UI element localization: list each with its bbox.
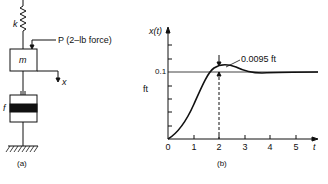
- y-unit-label: ft: [143, 85, 148, 94]
- y-ticks: [168, 45, 172, 126]
- force-line: [32, 40, 56, 47]
- displacement-line: [37, 71, 58, 80]
- y-tick-label: 0.1: [155, 68, 166, 76]
- spring-icon: [20, 6, 26, 49]
- y-axis-label: x(t): [149, 27, 162, 36]
- response-plot: [166, 27, 318, 141]
- y-axis-arrow-icon: [166, 27, 170, 33]
- mass-label: m: [19, 56, 27, 65]
- x-tick-3: 3: [242, 143, 247, 152]
- caption-a: (a): [17, 160, 27, 168]
- spring-label: k: [13, 20, 18, 29]
- x-axis-arrow-icon: [312, 137, 318, 141]
- x-tick-2: 2: [216, 143, 221, 152]
- displacement-label: x: [62, 78, 67, 87]
- ground-hatch-icon: [6, 146, 38, 152]
- x-tick-0: 0: [165, 143, 170, 152]
- displacement-arrow-icon: [56, 78, 60, 82]
- x-ticks: [194, 135, 296, 139]
- diagram-canvas: [0, 0, 328, 184]
- x-tick-5: 5: [293, 143, 298, 152]
- overshoot-annotation: 0.0095 ft: [241, 55, 276, 64]
- damper-label: f: [3, 104, 6, 113]
- x-tick-1: 1: [191, 143, 196, 152]
- x-axis-label: t: [313, 143, 316, 152]
- force-arrow-icon: [30, 45, 34, 49]
- x-tick-4: 4: [267, 143, 272, 152]
- caption-b: (b): [217, 160, 227, 168]
- force-label: P (2–lb force): [58, 36, 112, 45]
- overshoot-arrow-up-icon: [217, 72, 221, 76]
- response-curve: [168, 65, 318, 139]
- damper-piston: [10, 104, 37, 112]
